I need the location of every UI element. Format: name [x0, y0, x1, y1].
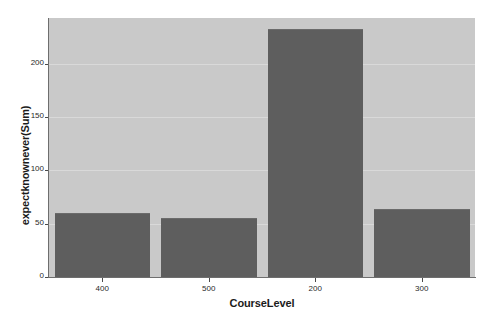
bars-container — [49, 18, 475, 277]
y-axis-tick-label: 0 — [0, 271, 44, 283]
y-axis-tick-label: 200 — [0, 58, 44, 70]
x-axis-line — [48, 277, 476, 278]
x-axis-tick-label: 500 — [179, 284, 239, 293]
y-axis-tick-label: 100 — [0, 164, 44, 176]
plot-area — [49, 18, 475, 277]
x-axis-tick-mark — [422, 278, 423, 282]
x-axis-tick-mark — [209, 278, 210, 282]
bar — [374, 209, 470, 277]
y-axis-tick-label: 150 — [0, 111, 44, 123]
x-axis-title: CourseLevel — [49, 297, 475, 309]
bar — [55, 213, 151, 277]
x-axis-tick-label: 400 — [72, 284, 132, 293]
x-axis-tick-mark — [315, 278, 316, 282]
bar — [161, 218, 257, 277]
bar-chart: expectknownever(Sum) 200150100500 400500… — [0, 0, 496, 323]
y-axis-tick-label: 50 — [0, 218, 44, 230]
bar — [268, 29, 364, 277]
x-axis-tick-mark — [102, 278, 103, 282]
x-axis-tick-label: 200 — [285, 284, 345, 293]
x-axis-tick-label: 300 — [392, 284, 452, 293]
